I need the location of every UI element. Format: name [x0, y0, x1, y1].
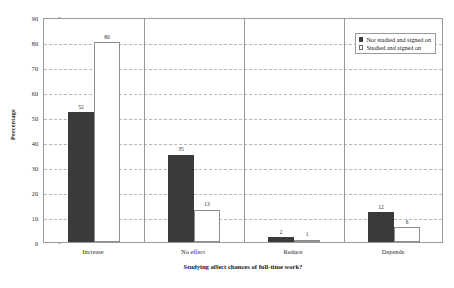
bar[interactable]: 13	[194, 210, 220, 243]
bar-group: 3513	[144, 19, 244, 242]
bar[interactable]: 52	[68, 112, 94, 242]
y-axis-tick-label: 40	[32, 140, 38, 147]
bar-value-label: 13	[204, 201, 209, 207]
legend-swatch-icon	[359, 37, 364, 42]
bar[interactable]: 6	[394, 227, 420, 242]
y-axis-title-text: Percentage	[10, 108, 17, 139]
bar-value-label: 12	[378, 204, 383, 210]
bar-value-label: 52	[78, 104, 83, 110]
bar[interactable]: 2	[268, 237, 294, 242]
y-axis-tick-label: 60	[32, 90, 38, 97]
bar[interactable]: 1	[294, 240, 320, 243]
bar-group: 5280	[44, 19, 144, 242]
bar-value-label: 80	[104, 34, 109, 40]
legend-swatch-icon	[359, 45, 364, 50]
y-axis-tick-label: 90	[32, 15, 38, 22]
y-axis-tick-label: 50	[32, 115, 38, 122]
x-axis-tick-label: Reduce	[283, 248, 302, 255]
y-axis-tick-label: 30	[32, 165, 38, 172]
bar-value-label: 2	[280, 229, 283, 235]
y-axis-tick-labels: 0102030405060708090	[18, 18, 40, 243]
bar-value-label: 6	[406, 219, 409, 225]
x-axis-tick-label: No effect	[181, 248, 205, 255]
bar[interactable]: 12	[368, 212, 394, 242]
legend-entry[interactable]: Not studied and signed on	[359, 36, 431, 43]
bar-value-label: 1	[306, 231, 309, 237]
legend: Not studied and signed onStudied and sig…	[355, 33, 436, 54]
y-axis-tick-label: 80	[32, 40, 38, 47]
y-axis-tick-label: 0	[35, 240, 38, 247]
x-axis-title: Studying affect chances of full-time wor…	[43, 263, 443, 270]
legend-entry[interactable]: Studied and signed on	[359, 44, 431, 51]
bar-group: 21	[244, 19, 344, 242]
y-axis-tick-label: 10	[32, 215, 38, 222]
bar[interactable]: 35	[168, 155, 194, 243]
bar[interactable]: 80	[94, 42, 120, 242]
bar-chart-figure: Percentage 0102030405060708090 528035132…	[0, 0, 454, 288]
legend-label: Not studied and signed on	[366, 36, 431, 43]
x-axis-tick-labels: IncreaseNo effectReduceDepends	[43, 248, 443, 262]
bar-value-label: 35	[178, 146, 183, 152]
y-axis-tick-label: 70	[32, 65, 38, 72]
x-axis-tick-label: Increase	[82, 248, 103, 255]
legend-label: Studied and signed on	[366, 44, 421, 51]
y-axis-tick-label: 20	[32, 190, 38, 197]
plot-area: 5280351321126 Not studied and signed onS…	[43, 18, 443, 243]
x-axis-tick-label: Depends	[382, 248, 404, 255]
